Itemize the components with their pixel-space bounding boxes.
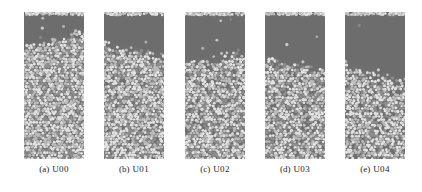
caption-name-u00: U00 [52, 164, 68, 174]
caption-name-u03: U03 [294, 164, 310, 174]
caption-name-u01: U01 [133, 164, 149, 174]
caption-u01: (b)U01 [92, 164, 176, 174]
caption-tag-u04: (e) [360, 164, 370, 174]
caption-name-u02: U02 [213, 164, 229, 174]
figure-granular-column-snapshots: (a)U00 (b)U01 (c)U02 (d)U03 (e)U04 [0, 0, 422, 192]
caption-u03: (d)U03 [253, 164, 337, 174]
panel-image-u00 [24, 12, 84, 159]
panel-image-u03 [265, 12, 325, 159]
panel-image-u02 [185, 12, 245, 159]
caption-name-u04: U04 [373, 164, 389, 174]
caption-u02: (c)U02 [173, 164, 257, 174]
caption-tag-u02: (c) [200, 164, 210, 174]
panel-u02 [185, 12, 245, 159]
panel-u03 [265, 12, 325, 159]
caption-u00: (a)U00 [12, 164, 96, 174]
caption-tag-u01: (b) [119, 164, 130, 174]
caption-tag-u00: (a) [39, 164, 49, 174]
panel-u00 [24, 12, 84, 159]
panel-u04 [345, 12, 405, 159]
caption-tag-u03: (d) [280, 164, 291, 174]
caption-u04: (e)U04 [333, 164, 417, 174]
panel-image-u04 [345, 12, 405, 159]
panel-u01 [104, 12, 164, 159]
panel-image-u01 [104, 12, 164, 159]
